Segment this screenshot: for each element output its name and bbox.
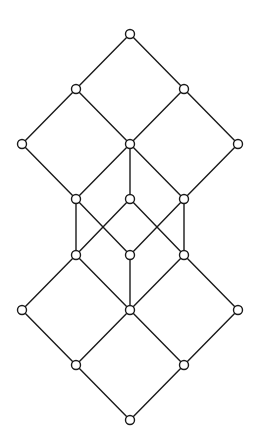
- node-n0: [126, 30, 135, 39]
- node-n6: [72, 195, 81, 204]
- node-n17: [126, 416, 135, 425]
- hasse-diagram: [0, 0, 260, 446]
- node-n14: [234, 306, 243, 315]
- node-n11: [180, 251, 189, 260]
- node-n12: [18, 306, 27, 315]
- node-n15: [72, 361, 81, 370]
- node-n16: [180, 361, 189, 370]
- node-n13: [126, 306, 135, 315]
- node-n10: [126, 251, 135, 260]
- node-n7: [126, 195, 135, 204]
- diagram-background: [0, 0, 260, 446]
- node-n1: [72, 85, 81, 94]
- node-n9: [72, 251, 81, 260]
- node-n5: [234, 140, 243, 149]
- node-n3: [18, 140, 27, 149]
- node-n2: [180, 85, 189, 94]
- node-n8: [180, 195, 189, 204]
- node-n4: [126, 140, 135, 149]
